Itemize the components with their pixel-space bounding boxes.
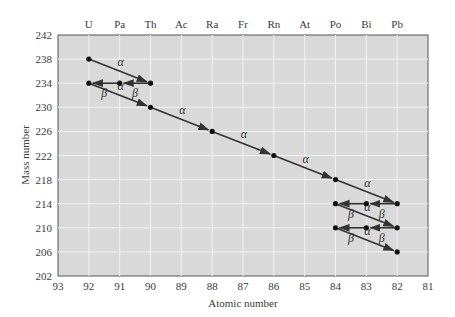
y-tick-label: 234 (36, 77, 53, 89)
x-tick-label: 85 (299, 280, 311, 292)
x-tick-label: 84 (330, 280, 342, 292)
nuclide-point (86, 57, 91, 62)
alpha-label: α (179, 103, 186, 117)
nuclide-point (148, 105, 153, 110)
y-tick-label: 230 (36, 101, 53, 113)
element-symbol: Po (330, 18, 342, 30)
element-symbol: Ra (206, 18, 218, 30)
beta-label: β (378, 207, 385, 221)
x-tick-label: 93 (53, 280, 65, 292)
y-tick-label: 242 (36, 29, 53, 41)
x-tick-label: 83 (361, 280, 373, 292)
beta-label: β (131, 86, 138, 100)
element-symbol: Ac (175, 18, 188, 30)
element-symbol: Th (144, 18, 157, 30)
nuclide-point (210, 129, 215, 134)
nuclide-point (364, 225, 369, 230)
alpha-label: α (303, 152, 310, 166)
element-symbol: Rn (267, 18, 280, 30)
x-tick-label: 82 (392, 280, 403, 292)
nuclide-point (395, 249, 400, 254)
nuclide-point (395, 201, 400, 206)
nuclide-point (117, 81, 122, 86)
nuclide-point (333, 177, 338, 182)
nuclide-point (271, 153, 276, 158)
y-axis-title: Mass number (19, 125, 31, 185)
x-tick-label: 90 (145, 280, 157, 292)
y-tick-label: 206 (36, 246, 53, 258)
y-tick-label: 226 (36, 125, 53, 137)
y-tick-label: 202 (36, 270, 53, 282)
nuclide-point (148, 81, 153, 86)
y-tick-label: 214 (36, 198, 53, 210)
x-tick-label: 88 (207, 280, 219, 292)
element-symbol: Bi (361, 18, 371, 30)
nuclide-point (333, 225, 338, 230)
y-tick-label: 222 (36, 150, 53, 162)
element-symbol: Pa (114, 18, 125, 30)
x-tick-label: 91 (114, 280, 125, 292)
x-tick-label: 81 (423, 280, 434, 292)
x-tick-label: 92 (83, 280, 94, 292)
alpha-label: α (241, 127, 248, 141)
y-tick-label: 210 (36, 222, 53, 234)
x-axis-title: Atomic number (208, 297, 278, 309)
y-tick-label: 238 (36, 53, 53, 65)
nuclide-point (364, 201, 369, 206)
element-symbol: Pb (391, 18, 403, 30)
element-symbol: Fr (238, 18, 248, 30)
element-symbol: U (85, 18, 93, 30)
element-symbol-labels: UPaThAcRaFrRnAtPoBiPb (85, 18, 404, 30)
x-tick-label: 89 (176, 280, 188, 292)
alpha-label: α (118, 55, 125, 69)
y-axis-ticks: 202206210214218222226230234238242 (36, 29, 53, 282)
decay-chart: 93929190898887868584838281 2022062102142… (0, 0, 455, 317)
x-tick-label: 86 (268, 280, 280, 292)
alpha-label: α (364, 176, 371, 190)
y-tick-label: 218 (36, 174, 53, 186)
nuclide-point (86, 81, 91, 86)
x-tick-label: 87 (238, 280, 250, 292)
nuclide-point (395, 225, 400, 230)
x-axis-ticks: 93929190898887868584838281 (53, 280, 434, 292)
beta-label: β (378, 231, 385, 245)
element-symbol: At (299, 18, 310, 30)
nuclide-point (333, 201, 338, 206)
